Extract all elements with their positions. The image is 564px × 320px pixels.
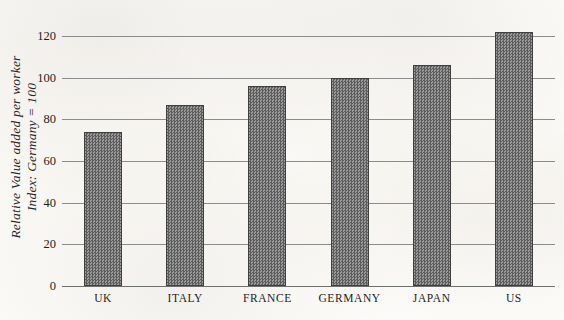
x-axis-label-us: US — [473, 292, 555, 304]
x-axis-category-labels: UKITALYFRANCEGERMANYJAPANUS — [62, 292, 555, 316]
y-axis-title: Relative Value added per worker Index: G… — [4, 2, 44, 292]
x-axis-label-germany: GERMANY — [309, 292, 391, 304]
gridline — [62, 286, 555, 287]
x-axis-label-japan: JAPAN — [391, 292, 473, 304]
x-axis-label-france: FRANCE — [226, 292, 308, 304]
bar-us — [495, 32, 533, 286]
y-axis-title-line-2: Index: Germany = 100 — [24, 83, 40, 211]
bar-germany — [331, 78, 369, 286]
y-axis-title-line-1: Relative Value added per worker — [8, 55, 24, 238]
x-axis-label-uk: UK — [62, 292, 144, 304]
bar-france — [248, 86, 286, 286]
x-axis-label-italy: ITALY — [144, 292, 226, 304]
bar-japan — [413, 65, 451, 286]
bar-italy — [166, 105, 204, 286]
bars-group — [62, 15, 555, 286]
bar-chart-figure: Relative Value added per worker Index: G… — [0, 0, 564, 320]
plot-area: 020406080100120 — [62, 15, 555, 286]
bar-uk — [84, 132, 122, 286]
